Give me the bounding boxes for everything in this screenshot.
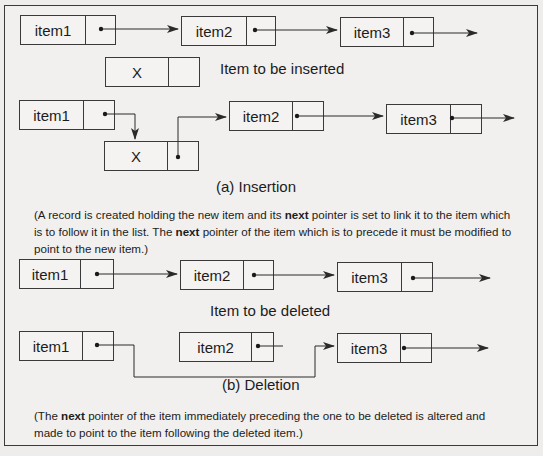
list-node-x-new: X: [105, 57, 200, 87]
deletion-explanation: (The next pointer of the item immediatel…: [34, 407, 504, 441]
list-node-item2: item2: [180, 260, 274, 290]
node-next-pointer-field: [244, 261, 273, 289]
item-to-be-deleted-label: Item to be deleted: [210, 302, 330, 319]
item-to-be-inserted-label: Item to be inserted: [220, 60, 344, 77]
list-node-item3: item3: [386, 104, 482, 134]
text: (A record is created holding the new ite…: [34, 208, 285, 221]
keyword-next: next: [61, 409, 85, 422]
node-value: item3: [338, 334, 401, 362]
list-node-item3: item3: [337, 262, 433, 292]
node-next-pointer-field: [404, 18, 433, 46]
node-next-pointer-field: [247, 17, 275, 45]
list-node-item2: item2: [229, 101, 324, 131]
node-value: item2: [180, 333, 252, 361]
node-next-pointer-field: [293, 102, 323, 130]
list-node-item1: item1: [19, 259, 114, 289]
node-next-pointer-field: [83, 332, 113, 360]
node-next-pointer-field: [86, 16, 115, 44]
node-value: X: [105, 142, 168, 170]
list-node-item1: item1: [19, 100, 115, 130]
list-node-x: X: [104, 141, 199, 171]
node-next-pointer-field: [451, 105, 481, 133]
node-value: item2: [181, 261, 244, 289]
insertion-explanation: (A record is created holding the new ite…: [34, 206, 514, 257]
node-value: item1: [20, 260, 81, 288]
node-next-pointer-field: [168, 142, 198, 170]
node-value: item3: [338, 263, 402, 291]
list-node-item1: item1: [19, 331, 114, 361]
list-node-item2: item2: [181, 16, 276, 46]
text: (The: [34, 409, 61, 422]
keyword-next: next: [176, 225, 200, 238]
node-next-pointer-field: [402, 263, 432, 291]
node-next-pointer-field: [252, 333, 273, 361]
node-value: item2: [230, 102, 293, 130]
node-value: item1: [21, 16, 86, 44]
node-next-pointer-field: [169, 58, 199, 86]
text: pointer of the item immediately precedin…: [34, 409, 485, 439]
node-value: item1: [20, 101, 84, 129]
deletion-caption: (b) Deletion: [222, 376, 300, 393]
node-next-pointer-field: [81, 260, 113, 288]
list-node-item2: item2: [179, 332, 274, 362]
node-value: item2: [182, 17, 247, 45]
node-next-pointer-field: [84, 101, 114, 129]
list-node-item3: item3: [337, 333, 432, 363]
node-next-pointer-field: [401, 334, 431, 362]
node-value: item1: [20, 332, 83, 360]
node-value: item3: [387, 105, 451, 133]
keyword-next: next: [285, 208, 309, 221]
list-node-item1: item1: [20, 15, 116, 45]
node-value: X: [106, 58, 169, 86]
node-value: item3: [341, 18, 404, 46]
insertion-caption: (a) Insertion: [216, 178, 296, 195]
list-node-item3: item3: [340, 17, 434, 47]
